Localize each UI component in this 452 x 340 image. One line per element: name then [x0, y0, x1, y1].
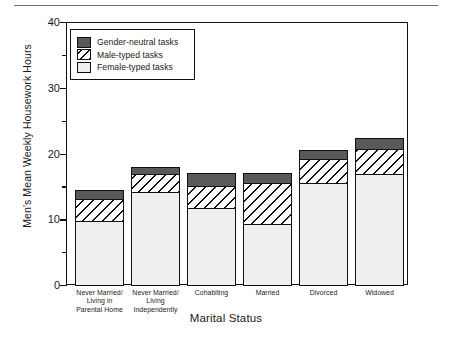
chart-legend: Gender-neutral tasks Male-typed tasks Fe…	[70, 29, 195, 80]
y-tick-label-0: 0	[38, 279, 60, 291]
bar-segment-male-typed	[243, 183, 292, 225]
y-axis-title: Men's Mean Weekly Housework Hours	[21, 11, 33, 261]
y-tick-label-10: 10	[38, 213, 60, 225]
y-tick-label-40: 40	[38, 16, 60, 28]
legend-item-gender-neutral[interactable]: Gender-neutral tasks	[77, 37, 188, 48]
legend-label-male-typed: Male-typed tasks	[97, 50, 163, 60]
bar-widowed[interactable]	[355, 134, 404, 285]
bar-divorced[interactable]	[299, 146, 348, 285]
y-tick-label-30: 30	[38, 82, 60, 94]
bar-segment-female-typed	[355, 174, 404, 286]
xtick-line-1: Widowed	[343, 289, 416, 297]
y-tick-label-20: 20	[38, 148, 60, 160]
xtick-label-widowed: Widowed	[343, 289, 416, 297]
stacked-bar-chart-figure: 40 30 20 10 0 Men's Mean Weekly Housewor…	[0, 0, 452, 340]
bar-segment-female-typed	[187, 208, 236, 286]
bar-segment-female-typed	[75, 221, 124, 287]
bar-segment-female-typed	[299, 183, 348, 286]
legend-swatch-female-typed-icon	[77, 62, 91, 73]
bar-never-married-parental-home[interactable]	[75, 186, 124, 285]
bar-segment-male-typed	[299, 159, 348, 184]
y-axis-tick-labels: 40 30 20 10 0	[36, 0, 60, 340]
legend-swatch-gender-neutral-icon	[77, 37, 91, 48]
bar-segment-female-typed	[243, 224, 292, 286]
xtick-line-2: Living	[119, 297, 192, 305]
legend-swatch-male-typed-icon	[77, 49, 91, 60]
bar-segment-male-typed	[131, 174, 180, 192]
legend-item-male-typed[interactable]: Male-typed tasks	[77, 49, 188, 60]
legend-label-female-typed: Female-typed tasks	[97, 62, 173, 72]
bar-segment-male-typed	[355, 149, 404, 176]
bar-never-married-independently[interactable]	[131, 163, 180, 285]
x-axis-title: Marital Status	[0, 312, 452, 324]
bar-segment-female-typed	[131, 192, 180, 287]
bar-married[interactable]	[243, 170, 292, 285]
legend-item-female-typed[interactable]: Female-typed tasks	[77, 62, 188, 73]
legend-label-gender-neutral: Gender-neutral tasks	[97, 37, 178, 47]
bar-segment-male-typed	[187, 186, 236, 210]
bar-segment-male-typed	[75, 199, 124, 222]
bar-cohabiting[interactable]	[187, 169, 236, 285]
ytick-0	[60, 285, 67, 286]
